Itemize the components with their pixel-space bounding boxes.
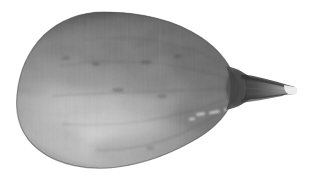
image-canvas: Grayscale photograph of a pear-shaped go… [0, 0, 317, 181]
stem-junction-shadow [226, 70, 246, 106]
gourd-photograph [0, 0, 317, 181]
